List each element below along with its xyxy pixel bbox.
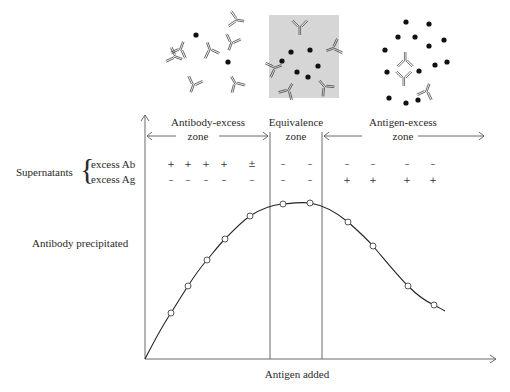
equivalence-zone-label: zone: [286, 130, 307, 142]
antibody-excess-illustration: [165, 11, 246, 96]
precipitin-curve: [145, 203, 445, 359]
equivalence-illustration: [265, 15, 343, 101]
antigen-excess-illustration: [382, 19, 449, 105]
antibody-excess-zone-label: zone: [188, 130, 209, 142]
equivalence-label: Equivalence: [269, 116, 323, 128]
precipitin-diagram: [0, 0, 510, 392]
antigen-excess-label: Antigen-excess: [369, 116, 437, 128]
x-axis-label: Antigen added: [265, 368, 329, 380]
antigen-dot: [225, 59, 230, 64]
antibody-excess-label: Antibody-excess: [171, 116, 245, 128]
axes: [141, 115, 496, 363]
excess-ag-label: excess Ag: [91, 173, 135, 185]
excess-ab-label: excess Ab: [91, 158, 135, 170]
data-points: [168, 200, 437, 316]
y-axis-label: Antibody precipitated: [32, 237, 128, 249]
antigen-dot: [193, 32, 198, 37]
supernatants-label: Supernatants: [16, 166, 73, 178]
antigen-excess-zone-label: zone: [393, 130, 414, 142]
